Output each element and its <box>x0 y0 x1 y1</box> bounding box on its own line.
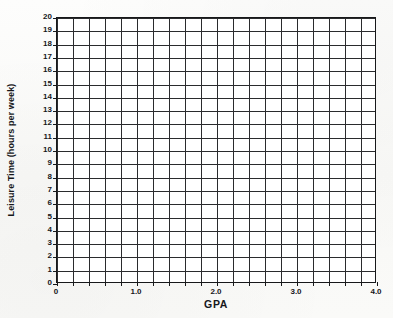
y-axis-tick-label: 15 <box>30 80 52 88</box>
y-axis-tick-label: 4 <box>30 226 52 234</box>
y-axis-tick-label: 17 <box>30 53 52 61</box>
y-axis-tick <box>53 257 57 258</box>
x-axis-tick-label: 4.0 <box>356 287 393 297</box>
y-axis-tick-labels: 01234567891011121314151617181920 <box>26 17 52 283</box>
x-axis-tick <box>105 282 106 286</box>
y-axis-tick <box>53 45 57 46</box>
y-axis-tick <box>53 271 57 272</box>
y-axis-tick-label: 18 <box>30 40 52 48</box>
x-axis-tick <box>249 282 250 286</box>
y-axis-tick <box>53 18 57 19</box>
x-axis-tick-label: 3.0 <box>276 287 316 297</box>
x-axis-tick <box>345 282 346 286</box>
y-axis-tick-label: 19 <box>30 26 52 34</box>
x-axis-tick <box>265 282 266 286</box>
y-axis-tick-label: 2 <box>30 252 52 260</box>
y-axis-tick <box>53 31 57 32</box>
y-axis-tick <box>53 218 57 219</box>
y-axis-tick <box>53 71 57 72</box>
y-axis-tick-label: 1 <box>30 266 52 274</box>
y-axis-tick-label: 14 <box>30 93 52 101</box>
y-axis-tick <box>53 231 57 232</box>
y-axis-tick <box>53 138 57 139</box>
x-axis-tick <box>329 282 330 286</box>
y-axis-tick <box>53 58 57 59</box>
x-axis-tick <box>377 282 378 286</box>
y-axis-tick-label: 8 <box>30 173 52 181</box>
x-axis-tick <box>121 282 122 286</box>
x-axis-tick <box>89 282 90 286</box>
x-axis-tick-label: 0 <box>36 287 76 297</box>
x-axis-tick <box>281 282 282 286</box>
y-axis-tick-label: 16 <box>30 66 52 74</box>
x-axis-tick <box>201 282 202 286</box>
y-axis-tick-label: 20 <box>30 13 52 21</box>
x-axis-tick <box>137 282 138 286</box>
y-axis-tick <box>53 85 57 86</box>
y-axis-tick <box>53 98 57 99</box>
y-axis-tick <box>53 164 57 165</box>
x-axis-tick <box>57 282 58 286</box>
x-axis-title: GPA <box>56 298 376 310</box>
x-axis-tick <box>185 282 186 286</box>
x-axis-tick <box>169 282 170 286</box>
y-axis-tick-label: 3 <box>30 239 52 247</box>
x-axis-tick <box>297 282 298 286</box>
x-axis-tick <box>217 282 218 286</box>
y-axis-tick-label: 9 <box>30 159 52 167</box>
y-axis-tick-label: 10 <box>30 146 52 154</box>
y-axis-tick <box>53 191 57 192</box>
x-axis-tick <box>313 282 314 286</box>
y-axis-title: Leisure Time (hours per week) <box>0 17 22 283</box>
y-axis-tick <box>53 111 57 112</box>
y-axis-tick-label: 13 <box>30 106 52 114</box>
x-axis-tick <box>233 282 234 286</box>
y-axis-tick-label: 6 <box>30 199 52 207</box>
x-axis-tick-label: 1.0 <box>116 287 156 297</box>
y-axis-tick <box>53 151 57 152</box>
x-axis-tick <box>153 282 154 286</box>
y-axis-tick <box>53 244 57 245</box>
y-axis-tick-label: 12 <box>30 119 52 127</box>
y-axis-tick-label: 0 <box>30 279 52 287</box>
chart-title <box>0 0 393 2</box>
plot-grid-area[interactable] <box>56 17 376 283</box>
y-axis-tick-label: 5 <box>30 213 52 221</box>
y-axis-tick <box>53 178 57 179</box>
x-axis-tick <box>361 282 362 286</box>
y-axis-tick-label: 7 <box>30 186 52 194</box>
x-axis-tick <box>73 282 74 286</box>
y-axis-tick <box>53 124 57 125</box>
y-axis-tick <box>53 204 57 205</box>
y-axis-tick-label: 11 <box>30 133 52 141</box>
chart-figure: Leisure Time (hours per week) 0123456789… <box>0 0 393 318</box>
x-axis-tick-label: 2.0 <box>196 287 236 297</box>
